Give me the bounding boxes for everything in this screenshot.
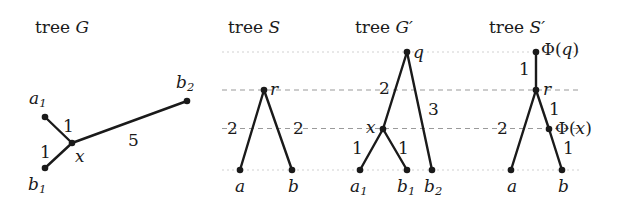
tree-gprime-node-a1-label: a1 — [350, 178, 367, 198]
tree-gprime-weight-q-x: 2 — [379, 80, 390, 97]
tree-sprime-edge-r-a — [511, 90, 536, 170]
tree-gprime-weight-x-a1: 1 — [352, 140, 363, 157]
tree-g-node-a1-label: a1 — [29, 90, 46, 110]
tree-gprime-weight-q-b2: 3 — [428, 101, 439, 118]
tree-sprime-node-phiq — [533, 49, 540, 56]
tree-g-node-b2 — [184, 98, 191, 105]
tree-sprime-weight-phiq-r: 1 — [519, 61, 530, 78]
tree-gprime-node-a1 — [357, 167, 364, 174]
tree-s-node-r-label: r — [270, 81, 278, 98]
tree-gprime-node-b2 — [429, 167, 436, 174]
tree-sprime-node-phix-label: Φ(x) — [555, 120, 592, 137]
tree-s-node-r — [261, 87, 268, 94]
tree-gprime-weight-x-b1: 1 — [398, 140, 409, 157]
tree-sprime-node-a-label: a — [507, 178, 517, 195]
tree-g-node-x-label: x — [75, 148, 85, 165]
tree-g-weight-x-a1: 1 — [63, 118, 74, 135]
tree-sprime-weight-phix-b: 1 — [563, 140, 574, 157]
tree-gprime-node-b1 — [404, 167, 411, 174]
tree-s-node-b-label: b — [288, 178, 299, 195]
tree-g-weight-x-b2: 5 — [128, 132, 139, 149]
tree-g-node-a1 — [42, 114, 49, 121]
tree-sprime-node-b — [559, 167, 566, 174]
tree-sprime-node-a — [508, 167, 515, 174]
tree-sprime-node-phix — [546, 126, 553, 133]
tree-s-node-a-label: a — [235, 178, 245, 195]
tree-g-node-b1 — [42, 165, 49, 172]
tree-g-weight-x-b1: 1 — [40, 144, 51, 161]
tree-gprime-node-x — [380, 126, 387, 133]
tree-sprime-weight-r-phix: 1 — [549, 101, 560, 118]
tree-sprime-title: tree S′ — [489, 19, 545, 36]
tree-gprime-graph — [357, 49, 436, 174]
tree-gprime-node-x-label: x — [366, 119, 376, 136]
tree-sprime-node-r-label: r — [543, 81, 551, 98]
tree-sprime-node-b-label: b — [558, 178, 569, 195]
tree-sprime-node-r — [533, 87, 540, 94]
tree-s-edge-r-b — [264, 90, 292, 170]
tree-g-node-b1-label: b1 — [28, 176, 46, 196]
tree-gprime-title: tree G′ — [355, 19, 413, 36]
tree-s-node-b — [289, 167, 296, 174]
tree-gprime-node-b2-label: b2 — [424, 178, 442, 198]
tree-s-node-a — [237, 167, 244, 174]
tree-s-edge-r-a — [240, 90, 264, 170]
tree-sprime-weight-r-a: 2 — [497, 120, 508, 137]
tree-s-graph — [237, 87, 296, 174]
tree-g-node-b2-label: b2 — [176, 74, 194, 94]
tree-transformation-figure: tree G tree S tree G′ tree S′ a1 x b1 b2… — [0, 0, 635, 210]
tree-s-weight-r-b: 2 — [293, 120, 304, 137]
tree-gprime-node-q-label: q — [413, 44, 424, 61]
tree-g-title: tree G — [35, 19, 89, 36]
tree-gprime-node-b1-label: b1 — [397, 178, 415, 198]
tree-s-weight-r-a: 2 — [227, 120, 238, 137]
tree-gprime-node-q — [404, 49, 411, 56]
tree-s-title: tree S — [228, 19, 280, 36]
tree-sprime-node-phiq-label: Φ(q) — [541, 41, 579, 58]
